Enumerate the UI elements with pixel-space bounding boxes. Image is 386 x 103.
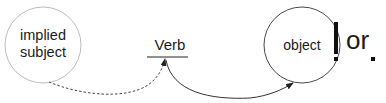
exclamation-dot [334,57,338,61]
object-label: object [266,37,338,53]
verb-to-object-arrow [166,60,293,98]
subject-to-verb-dashed-arrow [49,59,165,94]
verb-label: Verb [150,36,190,53]
subject-label: implied subject [5,27,81,61]
subject-label-line2: subject [5,44,81,61]
period-dot [371,57,375,61]
subject-label-line1: implied [5,27,81,44]
or-connector-label: or [346,25,369,55]
